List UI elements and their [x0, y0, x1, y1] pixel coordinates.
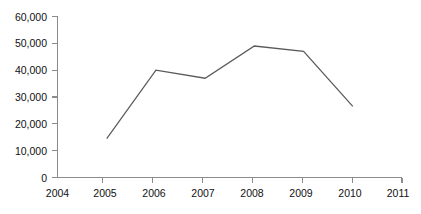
y-tick-label-50000: 50,000	[15, 37, 47, 49]
x-tick-label-2004: 2004	[46, 187, 70, 199]
y-tick-label-30000: 30,000	[15, 91, 47, 103]
x-tick-label-2011: 2011	[387, 187, 410, 199]
chart-canvas: 0 10,000 20,000 30,000 40,000 50,000 60,…	[0, 0, 421, 214]
x-tick-label-2010: 2010	[338, 187, 362, 199]
x-tick-label-2007: 2007	[191, 187, 215, 199]
x-tick-label-2009: 2009	[289, 187, 313, 199]
line-chart-figure: 0 10,000 20,000 30,000 40,000 50,000 60,…	[0, 0, 421, 214]
x-tick-label-2008: 2008	[240, 187, 264, 199]
x-tick-label-2005: 2005	[93, 187, 117, 199]
y-tick-label-20000: 20,000	[15, 118, 47, 130]
chart-background	[0, 0, 421, 214]
y-tick-label-60000: 60,000	[15, 11, 47, 23]
y-tick-label-40000: 40,000	[15, 64, 47, 76]
x-tick-label-2006: 2006	[142, 187, 166, 199]
y-tick-label-10000: 10,000	[15, 145, 47, 157]
y-tick-label-0: 0	[41, 172, 47, 184]
